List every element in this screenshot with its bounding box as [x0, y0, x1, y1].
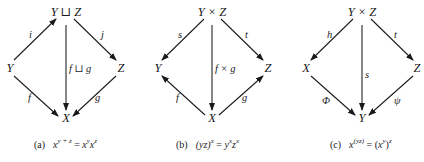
label-b-g: g [242, 92, 247, 103]
node-c-bottom: Y [359, 111, 368, 125]
caption-b: (b)(yz)x = yxzx [176, 137, 240, 151]
node-a-right: Z [118, 61, 126, 75]
arrow-c-t [371, 19, 413, 60]
label-a-i: i [29, 29, 32, 40]
arrow-b-f [162, 76, 205, 115]
label-b-t: t [245, 29, 249, 40]
arrow-c-psi [369, 76, 413, 115]
arrow-a-i [14, 19, 56, 60]
diagram-b: Y × Z Y Z X s t f × g f g (b)(yz)x = yxz… [155, 5, 273, 151]
arrow-a-j [74, 19, 116, 60]
label-c-vertical: s [365, 69, 369, 80]
arrow-b-g [219, 76, 263, 115]
label-b-f: f [176, 92, 181, 103]
node-b-bottom: X [207, 111, 217, 125]
label-c-h: h [327, 29, 332, 40]
label-c-psi: ψ [394, 95, 401, 106]
node-a-bottom: X [61, 111, 71, 125]
arrow-a-f [14, 76, 58, 116]
label-a-g: g [95, 92, 100, 103]
label-c-t: t [394, 29, 398, 40]
node-b-right: Z [265, 61, 273, 75]
arrow-b-s [162, 19, 204, 60]
node-a-left: Y [7, 61, 16, 75]
diagram-c: Y × Z X Z Y h t s Φ ψ (c)x(yz) = (xy)z [301, 5, 421, 151]
commutative-diagrams: Y ⊔ Z Y Z X i j f ⊔ g f g (a)xy + z = xy… [0, 0, 424, 162]
label-c-phi: Φ [322, 95, 330, 106]
label-b-s: s [178, 29, 182, 40]
caption-a: (a)xy + z = xyxz [34, 137, 97, 151]
label-a-vertical: f ⊔ g [69, 63, 91, 74]
node-b-left: Y [155, 61, 164, 75]
node-c-right: Z [414, 61, 422, 75]
label-b-vertical: f × g [215, 63, 236, 74]
caption-c: (c)x(yz) = (xy)z [330, 137, 392, 151]
diagram-a: Y ⊔ Z Y Z X i j f ⊔ g f g (a)xy + z = xy… [7, 5, 126, 151]
node-b-top: Y × Z [198, 5, 228, 19]
arrow-b-t [221, 19, 263, 60]
node-a-top: Y ⊔ Z [51, 5, 83, 19]
node-c-left: X [301, 61, 311, 75]
label-a-f: f [28, 92, 33, 103]
arrow-c-phi [311, 76, 355, 115]
label-a-j: j [99, 29, 104, 40]
node-c-top: Y × Z [348, 5, 378, 19]
